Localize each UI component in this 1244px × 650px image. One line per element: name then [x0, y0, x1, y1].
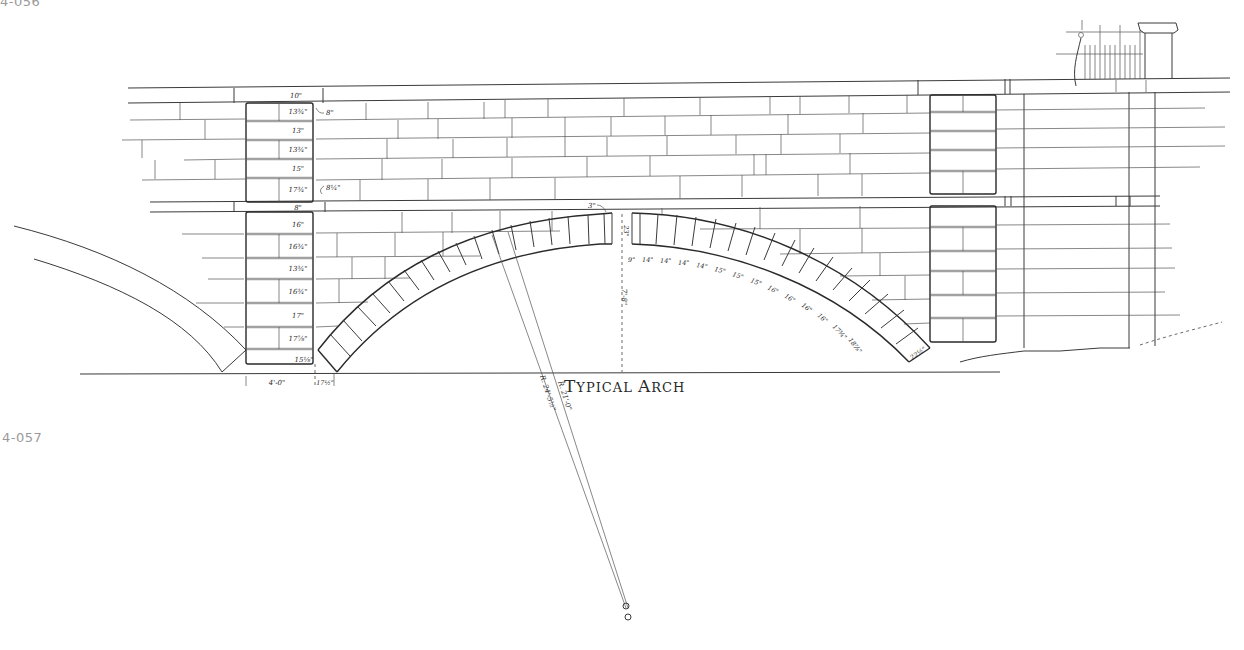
voussoir-dim: 16" [783, 292, 797, 305]
springing-line [80, 372, 1000, 374]
voussoir-dim: 14" [678, 259, 689, 267]
arch-ring: 3" 23" 7'-8" 9" 14" 14" 14" 14" 15" 15" … [318, 202, 930, 372]
course-label: 13¾" [289, 146, 308, 154]
course-label: 17⅞" [289, 335, 308, 343]
adjacent-arch-left [14, 226, 246, 372]
spandrel-wall-lower [316, 206, 930, 327]
voussoir-dim: 9" [628, 256, 635, 264]
callout-label: 8" [326, 109, 334, 117]
rise-dim: 7'-8" [620, 289, 628, 305]
course-label: 17¾" [289, 186, 308, 194]
voussoir-dim: 14" [660, 257, 671, 265]
voussoir-dim: 15" [714, 265, 727, 275]
pier-left: 10" 13¾" 13" 13¾" 15" 17¾" 8" 16" 16¾" 1… [246, 92, 340, 387]
abutment-right [960, 92, 1225, 362]
course-label: 16" [292, 221, 304, 229]
callout-label: 8¼" [326, 184, 340, 192]
voussoir-dim: 18⅞" [846, 336, 863, 355]
crown-joint-label: 3" [588, 202, 596, 210]
course-label: 15" [292, 165, 304, 173]
course-label: 15⅛" [295, 356, 314, 364]
radius-lines: R. 24'-5½" R. 21'-0" [492, 232, 631, 620]
course-label: 13¾" [289, 265, 308, 273]
voussoir-dim: 15" [731, 270, 744, 281]
voussoir-dim: 15" [749, 276, 762, 288]
voussoir-dim: 16" [766, 284, 780, 296]
arch-elevation-drawing: 10" 13¾" 13" 13¾" 15" 17¾" 8" 16" 16¾" 1… [0, 0, 1244, 650]
course-label: 16¾" [289, 243, 308, 251]
course-label: 10" [290, 92, 302, 100]
voussoir-dim: 16" [816, 312, 830, 325]
voussoir-dims: 9" 14" 14" 14" 14" 15" 15" 15" 16" 16" 1… [628, 256, 864, 355]
pier-right [930, 95, 996, 342]
pier-width-dim: 4'-0" [268, 379, 285, 387]
voussoir-dim: 14" [642, 256, 653, 264]
crown-depth-label: 23" [622, 224, 630, 236]
voussoir-dim: 16" [800, 301, 814, 314]
voussoir-dim: 17¾" [831, 323, 849, 341]
belt-course-label: 8" [294, 204, 302, 212]
voussoir-dim: 14" [696, 261, 708, 271]
spandrel-wall-upper [122, 95, 930, 201]
springer-depth-label: 22½" [908, 345, 928, 362]
course-label: 13¾" [289, 108, 308, 116]
course-label: 13" [292, 127, 304, 135]
railing-and-post [1056, 20, 1178, 92]
course-label: 16¾" [289, 288, 308, 296]
drawing-title: TYPICAL ARCH [564, 376, 685, 396]
course-label: 17" [292, 312, 304, 320]
radius-extrados-label: R. 24'-5½" [538, 373, 557, 412]
skewback-dim: 17½" [316, 379, 334, 387]
